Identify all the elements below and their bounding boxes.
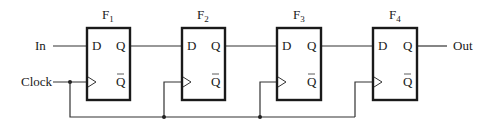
flipflop-f3: F3 D Q Q	[277, 7, 321, 100]
svg-text:Q: Q	[403, 74, 413, 89]
output-label-out: Out	[453, 38, 473, 53]
svg-text:D: D	[378, 38, 387, 53]
svg-text:Q: Q	[211, 74, 221, 89]
svg-text:Q: Q	[116, 38, 126, 53]
clock-tap-f2	[164, 82, 182, 117]
svg-text:D: D	[92, 38, 101, 53]
flipflop-f1: F1 D Q Q	[87, 7, 130, 100]
svg-text:Q: Q	[211, 38, 221, 53]
ff-name: F1	[102, 7, 114, 24]
svg-text:Q: Q	[403, 38, 413, 53]
input-label-in: In	[35, 38, 46, 53]
ff-name: F2	[197, 7, 209, 24]
svg-text:D: D	[187, 38, 196, 53]
junction-dot	[162, 115, 166, 119]
clock-tap-f4	[355, 82, 373, 117]
svg-text:D: D	[282, 38, 291, 53]
junction-dot	[258, 115, 262, 119]
input-label-clock: Clock	[21, 74, 53, 89]
svg-text:Q: Q	[307, 38, 317, 53]
flipflop-f2: F2 D Q Q	[182, 7, 225, 100]
svg-text:Q: Q	[307, 74, 317, 89]
svg-text:Q: Q	[116, 74, 126, 89]
clock-tap-f3	[260, 82, 277, 117]
shift-register-diagram: In Clock Out F1 D Q Q F2 D Q Q F3 D Q Q	[0, 0, 493, 124]
flipflop-f4: F4 D Q Q	[373, 7, 417, 100]
ff-name: F4	[389, 7, 401, 24]
ff-name: F3	[293, 7, 305, 24]
